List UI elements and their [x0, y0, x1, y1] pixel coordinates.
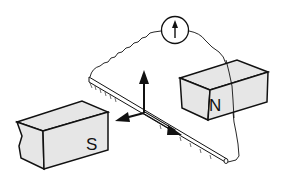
wire-left — [90, 31, 161, 77]
north-magnet: N — [180, 60, 268, 120]
north-label: N — [209, 96, 221, 115]
south-magnet: S — [17, 101, 108, 169]
arrow-up-icon — [139, 70, 149, 84]
arrow-left-icon — [115, 112, 130, 122]
arrow-right-icon — [167, 125, 182, 135]
electromagnetic-induction-diagram: N S — [0, 0, 285, 182]
galvanometer — [162, 17, 189, 44]
south-label: S — [86, 135, 97, 154]
